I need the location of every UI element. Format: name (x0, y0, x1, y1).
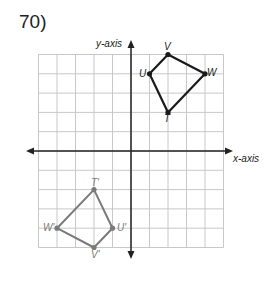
vertex-point (110, 226, 115, 231)
image-quadrilateral (54, 187, 115, 250)
x-axis-right-arrow-icon (225, 148, 233, 155)
original-quadrilateral (147, 52, 208, 115)
vertex-point (165, 52, 170, 57)
coordinate-plane: x-axis y-axis V U W T T' W' U' V' (0, 0, 277, 281)
x-axis-left-arrow-icon (26, 148, 34, 155)
vertex-label-u-prime: U' (117, 222, 127, 233)
vertex-label-t: T (164, 113, 171, 124)
y-axis (128, 40, 135, 259)
x-axis-label: x-axis (232, 153, 259, 164)
vertex-label-u: U (139, 68, 147, 79)
vertex-label-w-prime: W' (43, 222, 55, 233)
vertex-label-v: V (164, 41, 172, 52)
y-axis-up-arrow-icon (128, 40, 135, 48)
y-axis-label: y-axis (95, 38, 122, 49)
vertex-label-w: W (207, 67, 218, 78)
vertex-point (54, 226, 59, 231)
y-axis-down-arrow-icon (128, 251, 135, 259)
vertex-point (147, 71, 152, 76)
vertex-label-v-prime: V' (91, 249, 101, 260)
vertex-label-t-prime: T' (91, 177, 100, 188)
